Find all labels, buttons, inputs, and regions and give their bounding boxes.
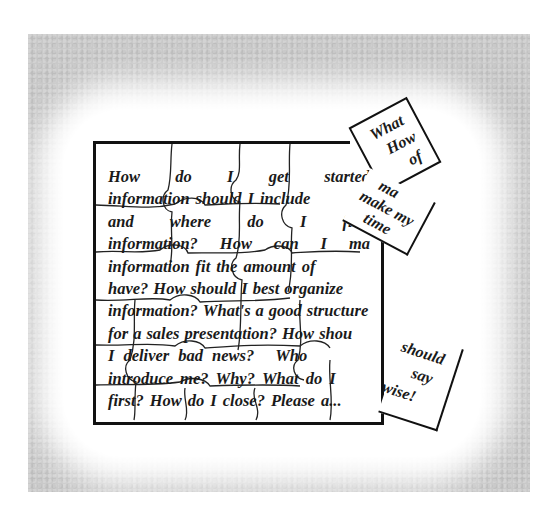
text-line-9: I deliver bad news? Who <box>108 345 370 367</box>
word: do <box>247 211 264 233</box>
text-line-10: introduce me? Why? What do I <box>108 368 370 390</box>
word: good <box>269 300 302 322</box>
word: I <box>108 345 114 367</box>
word: I <box>321 233 327 255</box>
word: I <box>241 278 247 300</box>
piece-word: should <box>399 337 447 370</box>
word: get <box>269 166 289 188</box>
text-line-6: have? How should I best organize <box>108 278 370 300</box>
word: Why? <box>216 368 255 390</box>
text-line-11: first? How do I close? Please a... <box>108 390 370 412</box>
word: introduce <box>108 368 173 390</box>
word: a... <box>321 390 342 412</box>
word: fit <box>196 256 211 278</box>
word: first? <box>108 390 144 412</box>
word: do <box>175 166 192 188</box>
word: How <box>150 390 182 412</box>
word: I <box>227 166 233 188</box>
word: I <box>247 188 253 210</box>
word: bad <box>178 345 203 367</box>
word: a <box>133 323 141 345</box>
word: a <box>256 300 264 322</box>
word: information <box>108 256 190 278</box>
word: sales <box>146 323 179 345</box>
word: the <box>216 256 237 278</box>
word: can <box>274 233 299 255</box>
text-line-8: for a sales presentation? How shou <box>108 323 370 345</box>
word: should <box>196 188 242 210</box>
word: How <box>220 233 252 255</box>
text-line-5: information fit the amount of <box>108 256 370 278</box>
word: I <box>300 211 306 233</box>
word: and <box>108 211 134 233</box>
word: information? <box>108 300 198 322</box>
word: best <box>253 278 280 300</box>
word: amount <box>243 256 295 278</box>
word: of <box>302 256 316 278</box>
word: What <box>262 368 299 390</box>
word: Who <box>275 345 307 367</box>
word: ma <box>349 233 370 255</box>
word: information <box>108 188 190 210</box>
word: shou <box>319 323 352 345</box>
word: Please <box>271 390 315 412</box>
word: for <box>108 323 128 345</box>
text-line-7: information? What's a good structure <box>108 300 370 322</box>
word: should <box>190 278 236 300</box>
word: I <box>210 390 216 412</box>
word: I <box>329 368 335 390</box>
word: presentation? <box>184 323 277 345</box>
text-line-4: information? How can I ma <box>108 233 370 255</box>
word: How <box>108 166 140 188</box>
word: close? <box>223 390 265 412</box>
text-line-1: How do I get started <box>108 166 370 188</box>
word: What's <box>203 300 251 322</box>
text-line-2: information should I include <box>108 188 370 210</box>
puzzle-question-text: How do I get started information should … <box>108 166 370 412</box>
word: news? <box>212 345 254 367</box>
word: include <box>260 188 310 210</box>
word: How <box>282 323 314 345</box>
word: have? <box>108 278 148 300</box>
word: deliver <box>123 345 169 367</box>
text-line-3: and where do I find <box>108 211 370 233</box>
word: me? <box>180 368 208 390</box>
word: information? <box>108 233 198 255</box>
word: where <box>170 211 211 233</box>
word: do <box>188 390 205 412</box>
word: structure <box>307 300 368 322</box>
word: do <box>306 368 323 390</box>
word: How <box>153 278 185 300</box>
word: organize <box>284 278 343 300</box>
piece-word: of <box>405 146 426 170</box>
